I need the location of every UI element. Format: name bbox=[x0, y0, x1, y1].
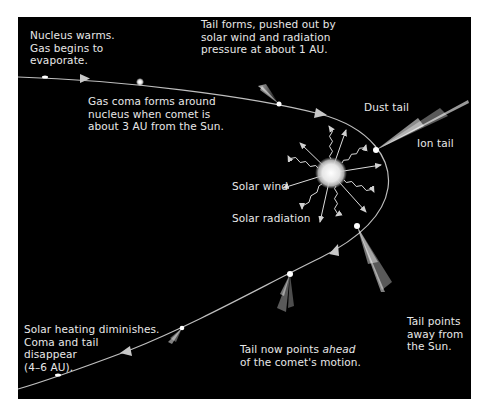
label-line: Tail now points ahead bbox=[240, 343, 361, 356]
comet-icon bbox=[277, 271, 294, 312]
label-line: (4–6 AU). bbox=[24, 361, 160, 374]
label-tail-ahead: Tail now points ahead of the comet's mot… bbox=[240, 343, 361, 368]
label-heating-diminishes: Solar heating diminishes. Coma and tail … bbox=[24, 323, 160, 373]
label-line: Gas begins to bbox=[30, 42, 115, 55]
label-text: Tail now points bbox=[240, 343, 322, 355]
sun-icon bbox=[315, 157, 347, 189]
comet-icon bbox=[136, 78, 144, 86]
label-line: Gas coma forms around bbox=[88, 95, 224, 108]
comet-icon bbox=[55, 374, 61, 377]
arrow-icon bbox=[314, 108, 327, 118]
label-solar-wind: Solar wind bbox=[232, 180, 288, 193]
label-emphasis: ahead bbox=[322, 343, 355, 355]
label-gas-coma: Gas coma forms around nucleus when comet… bbox=[88, 95, 224, 133]
label-line: about 3 AU from the Sun. bbox=[88, 120, 224, 133]
label-solar-radiation: Solar radiation bbox=[232, 212, 310, 225]
label-line: Coma and tail bbox=[24, 336, 160, 349]
label-ion-tail: Ion tail bbox=[417, 137, 454, 150]
label-tail-forms: Tail forms, pushed out by solar wind and… bbox=[201, 18, 336, 56]
label-line: nucleus when comet is bbox=[88, 108, 224, 121]
label-line: Tail forms, pushed out by bbox=[201, 18, 336, 31]
label-line: Solar heating diminishes. bbox=[24, 323, 160, 336]
label-line: the Sun. bbox=[407, 340, 463, 353]
label-line: evaporate. bbox=[30, 54, 115, 67]
comet-icon bbox=[354, 223, 392, 292]
comet-icon bbox=[168, 326, 184, 344]
arrow-icon bbox=[80, 74, 90, 83]
label-line: disappear bbox=[24, 348, 160, 361]
label-tail-points-away: Tail points away from the Sun. bbox=[407, 315, 463, 353]
comet-orbit-diagram: Nucleus warms. Gas begins to evaporate. … bbox=[18, 17, 471, 399]
label-line: Tail points bbox=[407, 315, 463, 328]
label-nucleus-warms: Nucleus warms. Gas begins to evaporate. bbox=[30, 29, 115, 67]
label-line: away from bbox=[407, 328, 463, 341]
label-line: of the comet's motion. bbox=[240, 356, 361, 369]
comet-icon bbox=[42, 76, 48, 79]
label-line: pressure at about 1 AU. bbox=[201, 43, 336, 56]
label-dust-tail: Dust tail bbox=[364, 101, 409, 114]
label-line: solar wind and radiation bbox=[201, 31, 336, 44]
arrow-icon bbox=[329, 244, 339, 256]
label-line: Nucleus warms. bbox=[30, 29, 115, 42]
